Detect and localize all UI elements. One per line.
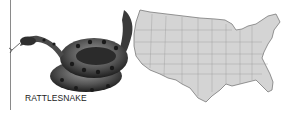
us-map bbox=[134, 10, 280, 102]
figure-caption: RATTLESNAKE bbox=[25, 93, 87, 103]
rattlesnake-illustration bbox=[9, 10, 133, 92]
